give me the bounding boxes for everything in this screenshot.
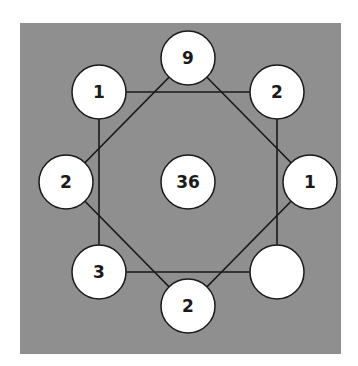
node-bottom-left-value: 3 (93, 262, 105, 282)
node-top: 9 (161, 31, 215, 85)
node-right-value: 1 (304, 172, 316, 192)
puzzle-diagram: 9 1 2 2 36 1 3 2 (0, 0, 358, 366)
node-center-value: 36 (176, 172, 200, 192)
node-top-value: 9 (182, 48, 194, 68)
node-left-value: 2 (60, 172, 72, 192)
node-bottom-left: 3 (72, 245, 126, 299)
node-top-left: 1 (72, 65, 126, 119)
node-top-right-value: 2 (271, 82, 283, 102)
node-left: 2 (39, 155, 93, 209)
node-top-left-value: 1 (93, 82, 105, 102)
node-bottom-value: 2 (182, 296, 194, 316)
node-bottom-right (250, 245, 304, 299)
node-top-right: 2 (250, 65, 304, 119)
node-center: 36 (161, 155, 215, 209)
node-bottom: 2 (161, 279, 215, 333)
node-right: 1 (283, 155, 337, 209)
